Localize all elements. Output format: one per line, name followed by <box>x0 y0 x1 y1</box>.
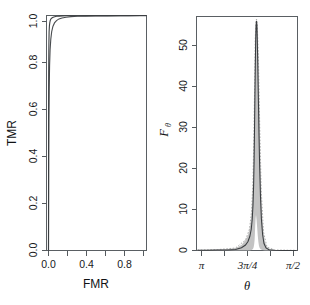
density-y-axis: 0 10 20 30 40 50 <box>177 39 197 253</box>
roc-y-axis-title: TMR <box>5 120 19 146</box>
roc-plot-frame <box>47 16 147 251</box>
roc-x-ticklabel-2: 0.4 <box>79 258 94 270</box>
roc-y-ticklabel-4: 0.8 <box>27 55 39 70</box>
density-plot-svg: 0 10 20 30 40 50 F θ π 3π/4 π/ <box>155 0 310 305</box>
density-curve <box>198 21 297 250</box>
roc-y-ticklabel-0: 0.0 <box>27 243 39 258</box>
roc-x-axis-title: FMR <box>83 277 109 291</box>
roc-x-ticklabel-0: 0.0 <box>41 258 56 270</box>
density-credible-band <box>198 19 297 251</box>
roc-x-ticklabel-4: 0.8 <box>117 258 132 270</box>
roc-x-axis: 0.0 0.4 0.8 <box>41 251 143 271</box>
density-y-ticklabel-5: 50 <box>177 39 189 51</box>
density-band-upper-edge <box>198 19 297 250</box>
density-x-ticklabel-4: π/2 <box>286 259 301 271</box>
density-y-axis-title-main: F <box>157 129 171 138</box>
density-x-ticklabel-2: 3π/4 <box>237 259 258 271</box>
density-x-axis: π 3π/4 π/2 <box>199 251 301 272</box>
roc-plot-svg: 0.0 0.2 0.4 0.6 0.8 1.0 TMR 0.0 0.4 0.8 <box>0 0 155 305</box>
roc-curve-2 <box>49 16 147 251</box>
density-y-axis-title: F θ <box>157 123 173 138</box>
density-x-axis-title: θ <box>244 279 250 293</box>
roc-y-axis: 0.0 0.2 0.4 0.6 0.8 1.0 <box>27 14 47 258</box>
density-y-ticklabel-4: 40 <box>177 80 189 92</box>
roc-curve-1 <box>49 16 147 251</box>
roc-y-ticklabel-2: 0.4 <box>27 149 39 164</box>
roc-panel: 0.0 0.2 0.4 0.6 0.8 1.0 TMR 0.0 0.4 0.8 <box>0 0 155 305</box>
density-y-ticklabel-1: 10 <box>177 203 189 215</box>
density-y-ticklabel-0: 0 <box>177 247 189 253</box>
density-plot-frame <box>197 17 298 251</box>
density-y-axis-title-sub: θ <box>164 123 173 127</box>
roc-y-ticklabel-3: 0.6 <box>27 102 39 117</box>
density-y-ticklabel-3: 30 <box>177 121 189 133</box>
density-x-ticklabel-0: π <box>199 259 205 271</box>
roc-y-ticklabel-1: 0.2 <box>27 196 39 211</box>
roc-y-ticklabel-5: 1.0 <box>27 14 39 29</box>
figure-container: 0.0 0.2 0.4 0.6 0.8 1.0 TMR 0.0 0.4 0.8 <box>0 0 310 305</box>
density-y-ticklabel-2: 20 <box>177 162 189 174</box>
density-panel: 0 10 20 30 40 50 F θ π 3π/4 π/ <box>155 0 310 305</box>
